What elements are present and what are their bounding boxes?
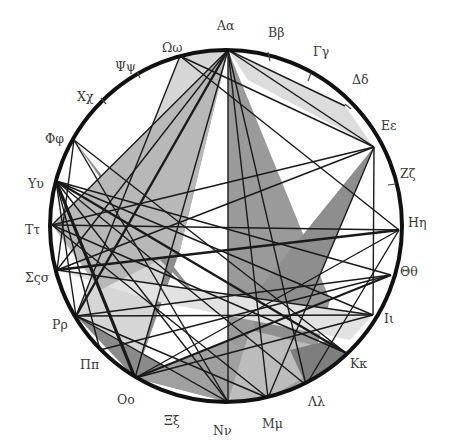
- letter-label: Ρρ: [52, 317, 68, 332]
- greek-circle-diagram: ΑαΒβΓγΔδΕεΖζΗηΘθΙιΚκΛλΜμΝνΞξΟοΠπΡρΣςσΤτΥ…: [0, 0, 455, 448]
- letter-label: Ιι: [384, 311, 394, 326]
- tick-mark: [388, 184, 396, 185]
- letter-label: Μμ: [262, 416, 283, 431]
- letter-label: Κκ: [350, 356, 367, 371]
- letter-label: Υυ: [27, 176, 44, 191]
- letter-label: Ββ: [268, 25, 284, 40]
- letter-label: Λλ: [307, 394, 325, 409]
- chord-line: [373, 147, 374, 315]
- letter-label: Σςσ: [25, 270, 50, 285]
- letter-label: Χχ: [77, 89, 94, 104]
- letter-label: Αα: [216, 18, 235, 33]
- letter-label: Ττ: [25, 222, 40, 237]
- letter-label: Ξξ: [164, 413, 180, 428]
- letter-label: Ππ: [80, 357, 99, 372]
- letter-label: Ζζ: [400, 166, 416, 181]
- letter-label: Ωω: [162, 40, 183, 55]
- letter-label: Ηη: [408, 215, 426, 230]
- letter-label: Φφ: [45, 131, 64, 146]
- letter-label: Οο: [117, 392, 135, 407]
- diagram-canvas: ΑαΒβΓγΔδΕεΖζΗηΘθΙιΚκΛλΜμΝνΞξΟοΠπΡρΣςσΤτΥ…: [0, 0, 455, 448]
- letter-label: Ψψ: [115, 59, 136, 74]
- letter-label: Γγ: [313, 44, 329, 59]
- letter-label: Θθ: [400, 264, 418, 279]
- tick-mark: [308, 73, 311, 81]
- letter-label: Εε: [381, 118, 397, 133]
- letter-label: Δδ: [352, 72, 369, 87]
- letter-label: Νν: [213, 423, 232, 438]
